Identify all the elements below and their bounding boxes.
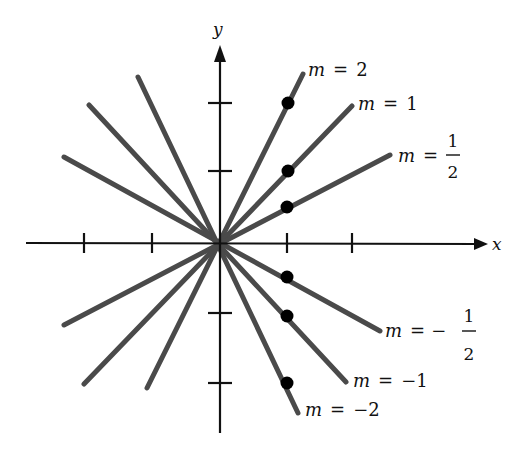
- fraction-denominator: 2: [448, 162, 459, 182]
- x-axis-arrow-icon: [474, 238, 488, 250]
- x-axis-label: x: [492, 234, 502, 254]
- slope-diagram: x y m=2 m=1 m= 1 2 m=−: [0, 0, 531, 453]
- point-m-half: [281, 201, 294, 214]
- label-m-2: m=2: [308, 59, 368, 80]
- point-m-1: [282, 165, 295, 178]
- label-m-neg-2: m=−2: [305, 399, 380, 420]
- label-m-neg-1: m=−1: [353, 370, 428, 391]
- point-m-neg-2: [281, 377, 294, 390]
- fraction-denominator: 2: [464, 344, 475, 364]
- point-m-neg-1: [281, 310, 294, 323]
- line-m-half: [64, 155, 390, 325]
- svg-text:m=−: m=−: [385, 320, 446, 341]
- svg-text:m=: m=: [398, 145, 438, 166]
- line-m-2: [147, 74, 303, 388]
- y-axis-label: y: [212, 19, 223, 39]
- x-axis: [26, 243, 478, 244]
- label-m-1: m=1: [358, 93, 418, 114]
- label-m-neg-half: m=− 1 2: [385, 306, 476, 364]
- point-m-neg-half: [281, 271, 294, 284]
- fraction-numerator: 1: [448, 131, 459, 151]
- y-axis-arrow-icon: [214, 45, 226, 62]
- label-m-half: m= 1 2: [398, 131, 460, 182]
- fraction-numerator: 1: [464, 306, 475, 326]
- point-m-2: [282, 97, 295, 110]
